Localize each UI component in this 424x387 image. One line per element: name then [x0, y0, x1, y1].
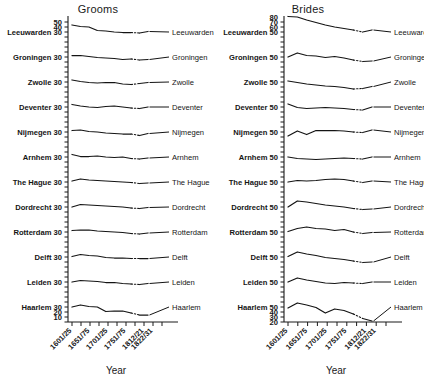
series-line-dordrecht [288, 201, 353, 209]
series-gap-deventer [353, 110, 362, 111]
series-line-arnhem [288, 157, 353, 160]
series-label-haarlem: Haarlem [394, 303, 423, 312]
series-label-deventer: Deventer [394, 103, 424, 112]
series-tail-the-hague [140, 183, 148, 184]
series-tail-deventer [363, 107, 372, 110]
series-label-leiden: Leiden [394, 278, 417, 287]
series-gap-zwolle [353, 89, 362, 90]
series-label-rotterdam: Rotterdam [172, 228, 207, 237]
series-tail-zwolle [363, 87, 372, 89]
series-gap-rotterdam [131, 234, 139, 235]
series-label-deventer: Deventer [172, 103, 203, 112]
series-leader [150, 32, 170, 33]
series-label-haarlem: Haarlem [172, 303, 201, 312]
series-label-dordrecht: Dordrecht [394, 203, 424, 212]
series-gap-nijmegen [131, 134, 139, 136]
series-leader [150, 207, 170, 208]
series-leader [150, 82, 170, 83]
series-leader [150, 182, 170, 183]
plot-brides: 807060Leeuwarden 50Groningen 50Zwolle 50… [212, 0, 424, 387]
series-gap-the-hague [353, 181, 362, 183]
series-leader [150, 282, 170, 284]
series-gap-dordrecht [131, 208, 139, 209]
series-leader [374, 82, 392, 87]
y-axis-city-label-groningen: Groningen 30 [13, 53, 62, 62]
series-leader [150, 132, 170, 134]
y-axis-city-label-nijmegen: Nijmegen 30 [17, 128, 62, 137]
y-axis-city-label-rotterdam: Rotterdam 50 [229, 228, 278, 237]
series-tail-groningen [363, 61, 372, 62]
x-axis-title: Year [106, 365, 127, 376]
y-axis-city-label-rotterdam: Rotterdam 30 [13, 228, 62, 237]
series-label-leiden: Leiden [172, 278, 195, 287]
series-label-rotterdam: Rotterdam [394, 228, 424, 237]
series-label-arnhem: Arnhem [394, 153, 421, 162]
series-tail-leeuwarden [140, 32, 148, 34]
series-gap-groningen [131, 59, 139, 60]
y-axis-city-label-zwolle: Zwolle 50 [244, 78, 278, 87]
series-tail-haarlem [363, 319, 372, 322]
series-label-groningen: Groningen [172, 53, 207, 62]
series-tail-the-hague [363, 181, 372, 183]
series-leader [374, 307, 392, 321]
y-axis-city-label-zwolle: Zwolle 30 [28, 78, 62, 87]
series-label-zwolle: Zwolle [394, 78, 416, 87]
series-tail-leiden [140, 284, 148, 285]
series-label-the-hague: The Hague [394, 178, 424, 187]
series-line-haarlem [72, 305, 131, 313]
series-tail-zwolle [140, 83, 148, 84]
series-label-leeuwarden: Leeuwarden [394, 28, 424, 37]
series-tail-delft [363, 262, 372, 263]
y-axis-city-label-leiden: Leiden 50 [243, 278, 278, 287]
series-line-haarlem [288, 303, 353, 314]
y-axis-city-label-delft: Delft 30 [35, 253, 62, 262]
y-tick-label: 20 [270, 318, 278, 327]
x-axis-title: Year [326, 365, 347, 376]
series-leader [150, 57, 170, 60]
series-label-zwolle: Zwolle [172, 78, 194, 87]
series-gap-zwolle [131, 84, 139, 85]
series-gap-arnhem [353, 159, 362, 160]
series-gap-leeuwarden [131, 33, 139, 34]
series-label-delft: Delft [394, 253, 411, 262]
plot-grooms: 5040Leeuwarden 30Groningen 30Zwolle 30De… [0, 0, 212, 387]
series-line-leeuwarden [288, 17, 353, 31]
series-leader [374, 232, 392, 233]
series-line-leeuwarden [72, 25, 131, 33]
series-tail-dordrecht [140, 208, 148, 209]
series-gap-haarlem [353, 314, 362, 319]
series-line-groningen [72, 56, 131, 60]
y-axis-city-label-dordrecht: Dordrecht 30 [15, 203, 62, 212]
series-gap-dordrecht [353, 209, 362, 210]
y-axis-city-label-leeuwarden: Leeuwarden 30 [7, 28, 62, 37]
series-gap-rotterdam [353, 232, 362, 234]
y-axis-city-label-deventer: Deventer 30 [19, 103, 62, 112]
series-gap-deventer [131, 108, 139, 109]
series-line-nijmegen [288, 131, 353, 137]
series-gap-nijmegen [353, 132, 362, 133]
series-leader [374, 57, 392, 61]
y-axis-city-label-deventer: Deventer 50 [235, 103, 278, 112]
series-gap-groningen [353, 60, 362, 62]
y-axis-city-label-delft: Delft 50 [251, 253, 278, 262]
series-tail-dordrecht [363, 209, 372, 210]
series-label-arnhem: Arnhem [172, 153, 199, 162]
series-line-zwolle [288, 81, 353, 89]
figure-root: Grooms 5040Leeuwarden 30Groningen 30Zwol… [0, 0, 424, 387]
series-line-rotterdam [72, 230, 131, 234]
series-label-nijmegen: Nijmegen [394, 128, 424, 137]
series-line-deventer [288, 104, 353, 110]
y-axis-city-label-the-hague: The Hague 30 [13, 178, 62, 187]
series-tail-arnhem [363, 157, 372, 159]
series-line-nijmegen [72, 130, 131, 134]
series-line-zwolle [72, 80, 131, 85]
y-axis-city-label-leeuwarden: Leeuwarden 50 [223, 28, 278, 37]
series-line-the-hague [72, 179, 131, 183]
series-line-rotterdam [288, 227, 353, 232]
series-label-delft: Delft [172, 253, 189, 262]
series-leader [150, 232, 170, 233]
series-gap-the-hague [131, 183, 139, 184]
series-gap-haarlem [131, 313, 139, 315]
series-tail-groningen [140, 60, 148, 61]
series-leader [374, 207, 392, 209]
